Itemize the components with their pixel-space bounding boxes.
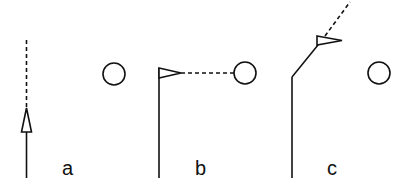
panel-a-target-circle xyxy=(103,63,125,85)
panel-b xyxy=(159,62,256,178)
panel-a xyxy=(22,40,126,178)
panel-c-target-circle xyxy=(368,62,390,84)
panel-a-arrow-icon xyxy=(22,108,32,132)
panel-c xyxy=(292,2,390,178)
panel-a-label: a xyxy=(62,158,73,178)
panel-b-target-circle xyxy=(234,62,256,84)
panel-b-flag-pointer-icon xyxy=(159,68,181,78)
panel-b-label: b xyxy=(195,158,206,178)
panel-c-flag-pointer-icon xyxy=(317,36,342,45)
panel-c-label: c xyxy=(327,158,337,178)
panel-c-dashed-path xyxy=(325,2,350,36)
panel-c-diagonal-path xyxy=(292,45,318,77)
